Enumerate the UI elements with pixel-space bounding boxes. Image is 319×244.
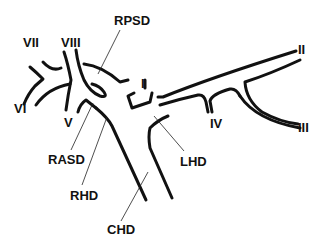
label-iv: IV xyxy=(210,116,223,131)
duct-segment-v xyxy=(78,100,96,112)
label-ii: II xyxy=(298,42,305,57)
label-i: I xyxy=(141,76,145,91)
leader-rhd xyxy=(82,117,107,185)
label-v: V xyxy=(64,115,73,130)
duct-segment-vii-inner xyxy=(43,62,61,69)
label-viii: VIII xyxy=(61,35,81,50)
label-lhd: LHD xyxy=(180,154,207,169)
duct-left-lower xyxy=(160,95,208,112)
label-rasd: RASD xyxy=(48,152,85,167)
label-iii: III xyxy=(298,120,309,135)
duct-segment-iii-inner xyxy=(245,60,300,124)
duct-segment-viii-right xyxy=(76,50,105,97)
duct-segment-i xyxy=(128,93,152,108)
duct-rpsd-arc xyxy=(84,64,128,82)
duct-lhd xyxy=(149,116,172,198)
label-vii: VII xyxy=(23,35,39,50)
duct-rhd-right xyxy=(96,108,146,200)
label-rhd: RHD xyxy=(70,188,98,203)
diagram-canvas: RPSD VII VIII I II III IV VI V RASD RHD … xyxy=(0,0,319,244)
biliary-tree-diagram: RPSD VII VIII I II III IV VI V RASD RHD … xyxy=(0,0,319,244)
label-vi: VI xyxy=(14,101,26,116)
duct-segment-iv xyxy=(210,89,240,112)
label-rpsd: RPSD xyxy=(114,13,150,28)
leader-rasd xyxy=(71,103,93,150)
leader-lhd xyxy=(154,116,184,151)
leader-rpsd xyxy=(98,30,120,74)
label-chd: CHD xyxy=(107,222,135,237)
duct-segment-viii-left xyxy=(64,52,71,110)
duct-segment-vi xyxy=(36,84,70,105)
